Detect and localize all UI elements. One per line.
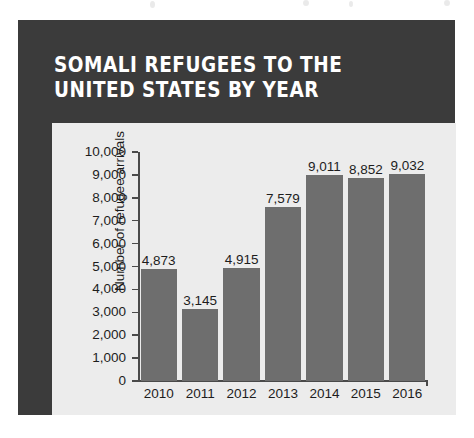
y-axis-tick-mark (132, 197, 138, 199)
y-axis-tick-mark (132, 220, 138, 222)
y-axis-tick-mark (132, 380, 138, 382)
figure-canvas: SOMALI REFUGEES TO THE UNITED STATES BY … (0, 0, 474, 438)
y-axis-tick-mark (132, 151, 138, 153)
bar (182, 309, 218, 381)
bar-value-label: 4,915 (217, 253, 267, 267)
y-axis-tick-label: 0 (66, 374, 126, 388)
chart-card: SOMALI REFUGEES TO THE UNITED STATES BY … (18, 20, 455, 415)
y-axis-tick-label: 5,000 (66, 260, 126, 274)
scan-artifact (150, 1, 155, 8)
y-axis-tick-mark (132, 334, 138, 336)
y-axis-tick-label: 7,000 (66, 214, 126, 228)
y-axis-tick-mark (132, 289, 138, 291)
y-axis-tick-label: 10,000 (66, 145, 126, 159)
bar (223, 268, 259, 381)
y-axis-tick-mark (132, 357, 138, 359)
bar (348, 178, 384, 381)
bar-value-label: 4,873 (134, 254, 184, 268)
bar-value-label: 3,145 (175, 294, 225, 308)
bar (389, 174, 425, 381)
scan-artifact (349, 1, 353, 7)
bar (265, 207, 301, 381)
y-axis-tick-mark (132, 243, 138, 245)
scan-artifact (303, 0, 309, 6)
bar-value-label: 7,579 (258, 192, 308, 206)
chart-title: SOMALI REFUGEES TO THE UNITED STATES BY … (54, 53, 405, 103)
y-axis-tick-mark (132, 312, 138, 314)
y-axis-tick-label: 9,000 (66, 168, 126, 182)
y-axis-tick-label: 4,000 (66, 283, 126, 297)
y-axis-tick-label: 8,000 (66, 191, 126, 205)
x-axis-tick-label: 2016 (382, 386, 432, 401)
y-axis-tick-labels: 01,0002,0003,0004,0005,0006,0007,0008,00… (64, 123, 126, 415)
y-axis-tick-label: 2,000 (66, 328, 126, 342)
bar (141, 269, 177, 381)
y-axis-tick-label: 6,000 (66, 237, 126, 251)
x-axis-tick-labels: 2010201120122013201420152016 (138, 386, 428, 408)
bars-container: 4,8733,1454,9157,5799,0118,8529,032 (138, 152, 428, 381)
bar-value-label: 9,032 (382, 159, 432, 173)
y-axis-tick-mark (132, 266, 138, 268)
scan-artifact (444, 0, 450, 6)
y-axis-tick-label: 1,000 (66, 351, 126, 365)
plot-panel: Number of refugee arrivals 01,0002,0003,… (52, 123, 456, 415)
y-axis-tick-label: 3,000 (66, 306, 126, 320)
bar (306, 175, 342, 381)
y-axis-tick-mark (132, 174, 138, 176)
